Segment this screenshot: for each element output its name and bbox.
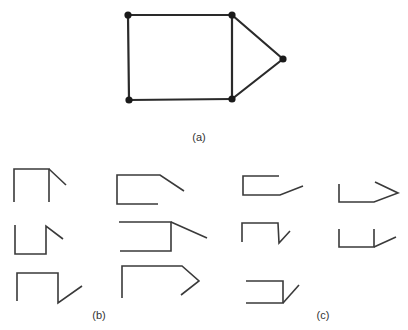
piece-stroke [283, 285, 299, 303]
piece-4 [119, 222, 207, 251]
piece-5 [17, 273, 82, 303]
piece-stroke [14, 169, 49, 202]
piece-1 [243, 176, 303, 195]
piece-stroke [242, 223, 290, 243]
piece-stroke [374, 237, 396, 247]
piece-stroke [243, 176, 303, 195]
graph-edge [129, 99, 232, 100]
piece-stroke [49, 169, 66, 185]
graph-vertex [124, 11, 131, 18]
decomposition-group-c [242, 176, 398, 303]
piece-stroke [15, 225, 63, 254]
graph-edge [128, 15, 129, 100]
label-a: (a) [192, 131, 205, 143]
piece-4 [339, 229, 396, 247]
piece-5 [246, 281, 299, 303]
graph-vertex [228, 11, 235, 18]
piece-stroke [17, 273, 82, 303]
piece-stroke [119, 222, 171, 251]
piece-stroke [171, 222, 207, 238]
decomposition-group-b [14, 169, 207, 303]
piece-1 [14, 169, 66, 202]
piece-2 [117, 175, 184, 204]
piece-6 [122, 266, 199, 298]
piece-stroke [117, 175, 184, 204]
figure-canvas [0, 0, 408, 330]
graph-vertex [279, 55, 286, 62]
piece-stroke [339, 229, 374, 247]
piece-stroke [122, 266, 199, 298]
graph-a [124, 11, 286, 103]
piece-3 [15, 225, 63, 254]
piece-stroke [246, 281, 283, 303]
graph-vertex [228, 95, 235, 102]
label-b: (b) [92, 309, 105, 321]
piece-3 [242, 223, 290, 243]
graph-edge [232, 59, 283, 99]
graph-vertex [125, 96, 132, 103]
graph-edge [232, 15, 283, 59]
piece-2 [339, 182, 398, 202]
label-c: (c) [317, 309, 330, 321]
piece-stroke [339, 182, 398, 202]
